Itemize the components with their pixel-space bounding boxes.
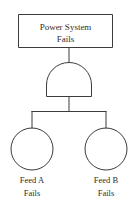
top-event-label-line2: Fails	[57, 34, 75, 44]
fault-tree-canvas: Power System Fails Feed A Fails Feed B F…	[0, 0, 140, 211]
basic-event-circle-feed-a[interactable]	[11, 128, 53, 170]
basic-event-b-label-line2: Fails	[98, 188, 115, 198]
basic-event-circle-feed-b[interactable]	[85, 128, 127, 170]
basic-event-b-label-line1: Feed B	[94, 175, 119, 185]
basic-event-a-label-line1: Feed A	[20, 175, 45, 185]
basic-event-a-label-line2: Fails	[24, 188, 41, 198]
and-gate-shape[interactable]	[47, 63, 92, 97]
fault-tree-diagram: Power System Fails Feed A Fails Feed B F…	[0, 0, 140, 211]
top-event-label-line1: Power System	[40, 22, 92, 32]
